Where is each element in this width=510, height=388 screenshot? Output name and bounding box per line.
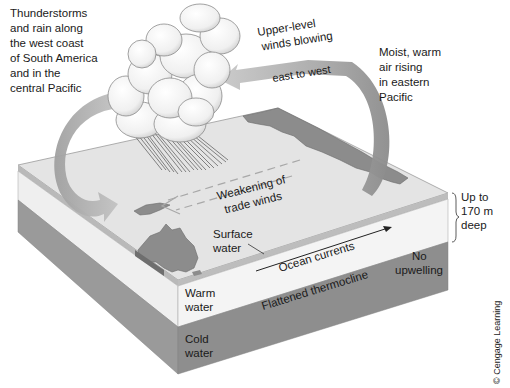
svg-text:© Cengage Learning: © Cengage Learning — [492, 301, 502, 384]
svg-text:in eastern: in eastern — [379, 76, 430, 88]
svg-text:Up to: Up to — [461, 191, 489, 203]
svg-text:water: water — [184, 301, 213, 313]
svg-text:the west coast: the west coast — [10, 37, 84, 49]
el-nino-diagram: Thunderstorms and rain along the west co… — [0, 0, 510, 388]
svg-text:Pacific: Pacific — [379, 91, 413, 103]
svg-text:central Pacific: central Pacific — [10, 82, 82, 94]
svg-text:upwelling: upwelling — [395, 264, 443, 276]
svg-text:170 m: 170 m — [461, 205, 493, 217]
svg-text:Surface: Surface — [213, 228, 253, 240]
svg-text:and rain along: and rain along — [10, 22, 83, 34]
svg-text:and in the: and in the — [10, 67, 61, 79]
svg-text:water: water — [212, 242, 241, 254]
credit-text: © Cengage Learning — [492, 301, 502, 384]
svg-text:Moist, warm: Moist, warm — [379, 46, 441, 58]
svg-text:Thunderstorms: Thunderstorms — [10, 7, 88, 19]
label-moist-air: Moist, warm air rising in eastern Pacifi… — [379, 46, 441, 103]
svg-text:of South America: of South America — [10, 52, 98, 64]
label-thunderstorms: Thunderstorms and rain along the west co… — [10, 7, 98, 94]
svg-text:Cold: Cold — [185, 333, 209, 345]
svg-text:air rising: air rising — [379, 61, 422, 73]
svg-text:water: water — [184, 347, 213, 359]
depth-bracket — [452, 193, 459, 242]
svg-text:Warm: Warm — [185, 287, 215, 299]
label-up-to: Up to 170 m deep — [461, 191, 493, 231]
svg-text:deep: deep — [461, 219, 487, 231]
svg-text:No: No — [412, 250, 427, 262]
label-upper-winds: Upper-level winds blowing — [256, 15, 333, 53]
